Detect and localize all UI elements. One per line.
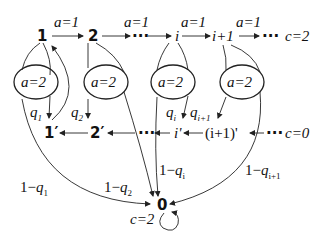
edge-label-1-2: a=1	[54, 14, 79, 30]
node-i-prime: i'	[174, 125, 182, 141]
bottom-ellipsis-2: ···	[266, 124, 283, 142]
label-1-minus-qi: 1−qi	[159, 162, 185, 181]
prob-label-qi: qi	[166, 104, 177, 123]
edge-label-i1-dots: a=1	[236, 14, 261, 30]
edge-2-into-ellipse-right	[96, 43, 124, 72]
bottom-ellipsis-1: ···	[138, 124, 155, 142]
arrow-1prime-to-1	[52, 46, 69, 120]
top-class-label: c=2	[285, 28, 310, 44]
prob-label-q2: q2	[71, 104, 84, 123]
top-ellipsis-2: ···	[262, 27, 279, 45]
node-i1-prime: (i+1)'	[205, 125, 238, 142]
arrow-q1	[49, 96, 50, 118]
edge-label-2-dots: a=1	[124, 14, 149, 30]
node-1-prime: 1′	[44, 124, 58, 142]
condition-label-i1: a=2	[227, 74, 253, 90]
arrow-qi1	[218, 97, 226, 118]
prob-label-q1: q1	[30, 104, 42, 123]
edge-1-into-ellipse-right	[43, 43, 50, 75]
self-loop-0	[160, 212, 179, 230]
label-1-minus-q2: 1−q2	[104, 179, 132, 198]
node-2: 2	[88, 27, 98, 45]
node-2-prime: 2′	[90, 124, 104, 142]
label-1-minus-q1: 1−q1	[20, 179, 48, 198]
condition-label-i: a=2	[158, 74, 184, 90]
arrow-ellipsei1-to-0	[170, 92, 261, 204]
prob-label-qi1: qi+1	[190, 104, 211, 123]
arrow-ellipsei-to-0	[156, 97, 158, 196]
arrow-ellipse2-to-0	[124, 92, 153, 196]
edge-label-i-i1: a=1	[181, 14, 206, 30]
arrow-qi	[183, 96, 188, 118]
node-1: 1	[37, 27, 47, 45]
sink-class-label: c=2	[130, 211, 155, 227]
condition-label-2: a=2	[91, 74, 117, 90]
node-0: 0	[157, 196, 167, 214]
markov-chain-diagram: 1 2 ··· i i+1 ··· c=2 a=1 a=1 a=1 a=1 a=…	[0, 0, 330, 239]
bottom-class-label: c=0	[285, 125, 310, 141]
condition-label-1: a=2	[21, 74, 47, 90]
label-1-minus-qi1: 1−qi+1	[245, 162, 281, 181]
node-i-plus-1: i+1	[212, 28, 234, 44]
node-i: i	[175, 28, 179, 44]
edge-i1-into-ellipse-left	[223, 45, 226, 70]
